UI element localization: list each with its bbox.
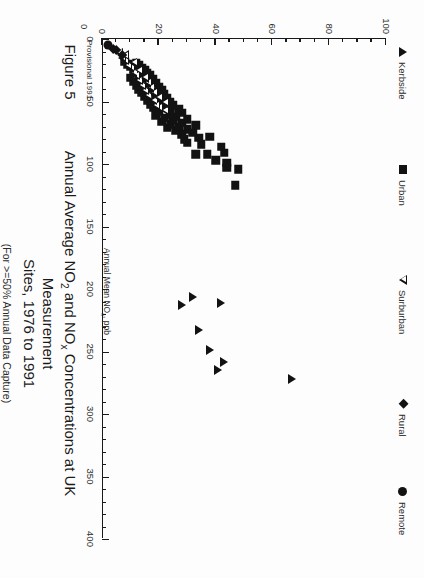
data-point-urban: [191, 150, 200, 159]
legend-item-kerbside: Kerbside: [398, 46, 409, 100]
filled-left-triangle-icon: [206, 345, 214, 355]
page-title: Annual Average NO2 and NOx Concentration…: [0, 114, 80, 534]
x-axis-tick-label: 350: [85, 469, 96, 485]
y-axis-tick: [186, 38, 187, 42]
figure-title-row: Figure 5 Annual Average NO2 and NOx Conc…: [0, 0, 80, 578]
y-axis-tick-label: 80: [324, 23, 335, 34]
x-axis-tick: [102, 464, 106, 465]
y-axis-tick: [385, 38, 386, 45]
chart-legend: KerbsideUrbanSurburbanRuralRemote: [392, 46, 414, 542]
y-axis-tick: [115, 38, 116, 42]
plot-frame: 050100150200250300350400 020406080100: [102, 38, 386, 538]
y-axis-tick: [314, 38, 315, 42]
y-axis-tick: [243, 38, 244, 42]
title-block: Figure 5 Annual Average NO2 and NOx Conc…: [0, 0, 80, 578]
y-axis-tick-label: 0: [97, 29, 108, 34]
filled-square-icon: [223, 159, 232, 168]
legend-item-label: Kerbside: [398, 62, 409, 100]
y-axis-tick-label: 40: [210, 23, 221, 34]
x-axis-tick: [102, 77, 106, 78]
data-point-kerbside: [214, 365, 222, 375]
x-axis-tick: [102, 489, 106, 490]
x-axis-tick-label: 150: [85, 219, 96, 235]
x-axis-tick: [102, 214, 106, 215]
y-axis-tick: [228, 38, 229, 42]
x-axis-tick: [102, 339, 106, 340]
data-point-urban: [211, 156, 220, 165]
filled-square-icon: [191, 121, 200, 130]
y-axis-tick: [143, 38, 144, 42]
data-point-kerbside: [206, 345, 214, 355]
y-axis-tick: [129, 38, 130, 42]
x-axis-tick-label: 100: [85, 156, 96, 172]
x-axis-tick: [102, 64, 106, 65]
filled-circle-icon: [103, 41, 112, 50]
x-axis-tick: [102, 114, 106, 115]
chart-area: KerbsideUrbanSurburbanRuralRemote 050100…: [0, 0, 424, 578]
x-axis-tick-label: 200: [85, 281, 96, 297]
filled-left-triangle-icon: [398, 46, 409, 57]
y-axis-tick-label: 60: [267, 23, 278, 34]
x-axis-tick: [102, 127, 106, 128]
rotated-figure-frame: KerbsideUrbanSurburbanRuralRemote 050100…: [0, 0, 424, 578]
filled-square-icon: [398, 164, 409, 175]
filled-left-triangle-icon: [178, 300, 186, 310]
y-axis-tick: [271, 38, 272, 45]
x-axis-tick: [102, 427, 106, 428]
title-segment-a: Annual Average NO: [62, 151, 79, 283]
data-point-urban: [231, 181, 240, 190]
open-triangle-icon: [398, 274, 409, 285]
legend-item-rural: Rural: [398, 398, 409, 437]
data-point-urban: [206, 132, 215, 141]
x-axis-tick: [102, 102, 109, 103]
legend-item-urban: Urban: [398, 164, 409, 206]
x-axis-tick-label: 250: [85, 344, 96, 360]
x-axis-tick: [102, 189, 106, 190]
filled-left-triangle-icon: [217, 298, 225, 308]
x-axis-tick-label: 300: [85, 406, 96, 422]
filled-square-icon: [206, 132, 215, 141]
data-point-urban: [223, 159, 232, 168]
data-point-kerbside: [189, 292, 197, 302]
filled-diamond-icon: [398, 398, 409, 409]
x-axis-tick: [102, 139, 106, 140]
x-axis-tick: [102, 352, 109, 353]
filled-left-triangle-icon: [288, 374, 296, 384]
x-axis-tick: [102, 389, 106, 390]
data-point-remote: [103, 41, 112, 50]
filled-square-icon: [203, 150, 212, 159]
figure-page: KerbsideUrbanSurburbanRuralRemote 050100…: [0, 0, 424, 578]
x-axis-tick: [102, 477, 109, 478]
y-axis-tick: [257, 38, 258, 42]
x-axis-title: Annual Mean NOx, ppb: [100, 248, 112, 328]
y-axis-tick: [172, 38, 173, 42]
x-axis-tick: [102, 402, 106, 403]
x-axis-tick: [102, 502, 106, 503]
legend-item-surburban: Surburban: [398, 274, 409, 334]
filled-left-triangle-icon: [195, 325, 203, 335]
figure-number: Figure 5: [62, 44, 80, 99]
x-axis-tick-label: 400: [85, 531, 96, 547]
x-axis-tick: [102, 227, 109, 228]
title-segment-b: and NO: [62, 289, 79, 345]
y-axis-tick: [285, 38, 286, 42]
x-axis-tick: [102, 514, 106, 515]
x-axis-tick: [102, 539, 109, 540]
data-point-kerbside: [178, 300, 186, 310]
legend-item-label: Rural: [398, 414, 409, 437]
data-point-urban: [217, 142, 226, 151]
x-axis-tick: [102, 364, 106, 365]
y-axis-tick: [157, 38, 158, 45]
filled-square-icon: [234, 165, 243, 174]
x-axis-tick: [102, 377, 106, 378]
data-point-kerbside: [217, 298, 225, 308]
data-point-kerbside: [288, 374, 296, 384]
filled-left-triangle-icon: [214, 365, 222, 375]
x-axis-tick: [102, 414, 109, 415]
x-axis-tick: [102, 52, 106, 53]
x-axis-title-text-b: , ppb: [102, 316, 112, 335]
origin-zero-label: 0: [79, 24, 90, 29]
y-axis-tick: [200, 38, 201, 42]
y-axis-tick-label: 20: [153, 23, 164, 34]
y-axis-tick: [299, 38, 300, 42]
